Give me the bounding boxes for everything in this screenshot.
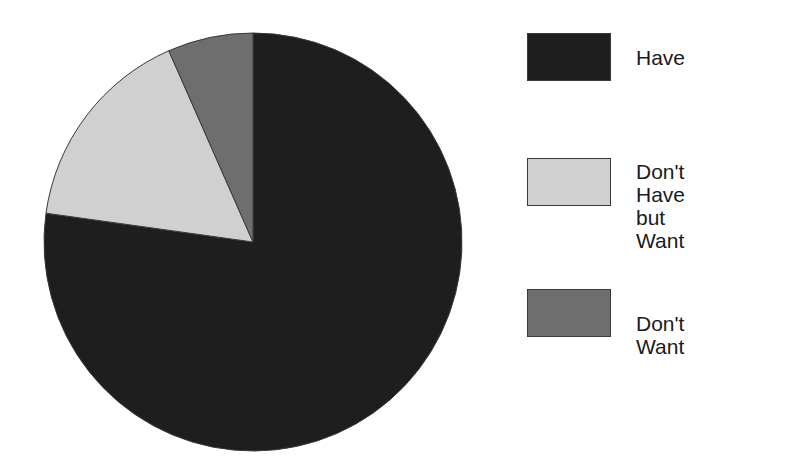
pie-slices — [44, 33, 462, 451]
legend-swatch-have — [527, 33, 611, 81]
legend-item-have: Have — [527, 33, 611, 81]
legend-swatch-dont-want — [527, 289, 611, 337]
legend-label-dont-want: Don't Want — [636, 312, 684, 358]
legend-item-dont-want: Don't Want — [527, 289, 611, 337]
legend-label-have: Have — [636, 46, 685, 69]
legend-item-dont-have-but-want: Don't Have but Want — [527, 158, 611, 206]
legend-label-dont-have-but-want: Don't Have but Want — [636, 160, 685, 252]
legend-swatch-dont-have-but-want — [527, 158, 611, 206]
